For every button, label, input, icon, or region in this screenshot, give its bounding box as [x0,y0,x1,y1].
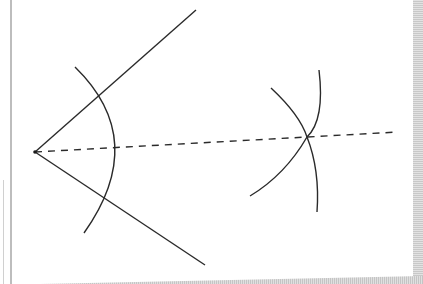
vertex-point [33,150,37,154]
vertex-arc [75,67,115,233]
construction-drawing [0,0,423,284]
paper-sheet [0,0,423,284]
upper-ray [35,10,196,152]
left-intersecting-arc [250,88,307,196]
bisector-dashed-line [35,132,398,152]
lower-ray [35,152,205,265]
right-intersecting-arc [307,70,321,212]
